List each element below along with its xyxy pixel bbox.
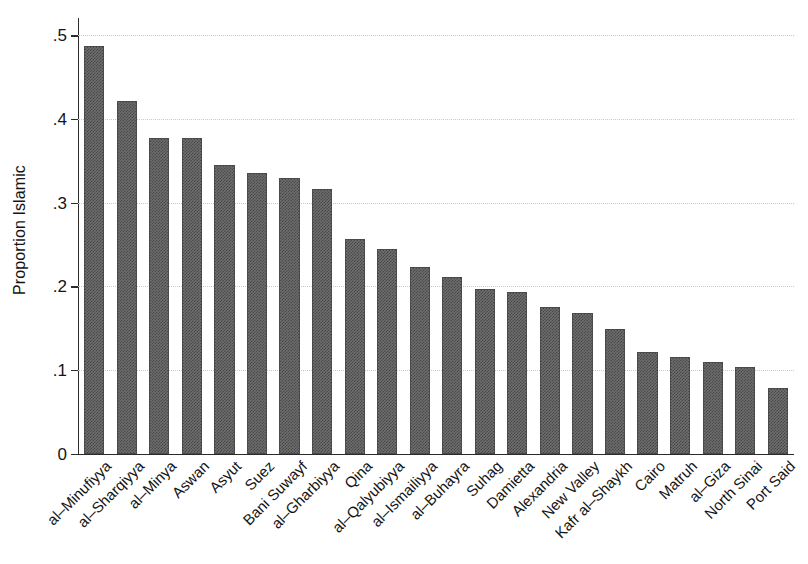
bar xyxy=(214,165,234,454)
x-tick-label: Aswan xyxy=(169,458,211,500)
x-axis-line xyxy=(78,454,794,455)
bar xyxy=(572,313,592,454)
y-tick-label: .5 xyxy=(53,27,67,44)
bar xyxy=(540,307,560,453)
bar-series xyxy=(78,19,794,454)
plot-area: 0.1.2.3.4.5 xyxy=(78,18,794,455)
bar xyxy=(345,239,365,454)
bar xyxy=(605,329,625,454)
bar xyxy=(703,362,723,453)
tick-mark xyxy=(71,370,78,371)
bar xyxy=(279,178,299,453)
bar xyxy=(768,388,788,454)
bar xyxy=(182,138,202,453)
bar xyxy=(312,189,332,453)
x-tick-label: Asyut xyxy=(207,458,244,495)
y-tick-label: 0 xyxy=(58,445,67,462)
bar xyxy=(247,173,267,454)
bar xyxy=(84,46,104,453)
bar xyxy=(475,289,495,454)
bar xyxy=(637,352,657,454)
bar xyxy=(507,292,527,453)
bar xyxy=(735,367,755,454)
tick-mark xyxy=(71,203,78,204)
tick-mark xyxy=(71,286,78,287)
y-tick-label: .4 xyxy=(53,110,67,127)
y-axis-title-text: Proportion Islamic xyxy=(11,165,29,295)
bar xyxy=(149,138,169,453)
y-tick-label: .3 xyxy=(53,194,67,211)
tick-mark xyxy=(71,454,78,455)
y-tick-label: .2 xyxy=(53,278,67,295)
bar xyxy=(670,357,690,453)
bar xyxy=(117,101,137,453)
x-axis-tick-labels: al–Minufiyyaal–Sharqiyyaal–MinyaAswanAsy… xyxy=(78,458,794,564)
y-tick-label: .1 xyxy=(53,361,67,378)
bar xyxy=(377,249,397,454)
bar xyxy=(410,267,430,454)
bar xyxy=(442,277,462,454)
tick-mark xyxy=(71,35,78,36)
tick-mark xyxy=(71,119,78,120)
bar-chart-figure: Proportion Islamic 0.1.2.3.4.5 al–Minufi… xyxy=(0,0,808,564)
y-axis-title: Proportion Islamic xyxy=(0,0,40,460)
